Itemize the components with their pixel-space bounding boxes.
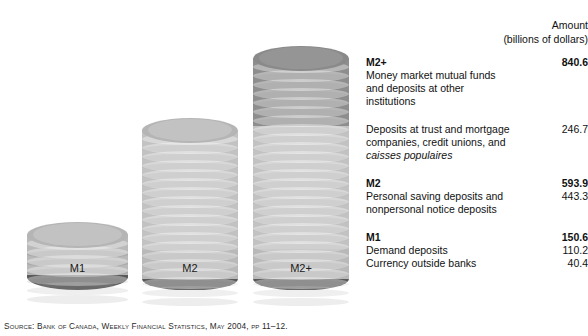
coin-shadow — [253, 298, 349, 306]
amount-column-header: Amount (billions of dollars) — [503, 18, 588, 46]
legend-line-text: Currency outside banks — [366, 257, 516, 270]
legend-heading-row: M2 593.9 — [366, 177, 588, 190]
axis-label-m2: M2 — [142, 262, 238, 274]
legend-heading-label: M2+ — [366, 56, 516, 69]
bar-top-cap-sheen — [259, 47, 343, 69]
legend-line: Personal saving deposits and 443.3 — [366, 190, 588, 203]
coin-seam — [142, 286, 238, 299]
bar-m2[interactable]: M2 — [142, 118, 238, 290]
amount-header-line2: (billions of dollars) — [503, 32, 588, 46]
legend-group-trust-mortgage: Deposits at trust and mortgage 246.7 com… — [366, 123, 588, 162]
axis-label-m1: M1 — [27, 262, 128, 274]
legend-heading-value: 593.9 — [532, 177, 588, 190]
legend-line: Demand deposits 110.2 — [366, 244, 588, 257]
amount-header-line1: Amount — [503, 18, 588, 32]
legend-line-text: Personal saving deposits and — [366, 190, 516, 203]
legend-line: institutions — [366, 95, 588, 108]
source-note: Source: Bank of Canada, Weekly Financial… — [4, 321, 288, 331]
legend-line-value: 110.2 — [532, 244, 588, 257]
bar-top-cap-sheen — [148, 119, 232, 141]
coin-seam — [27, 282, 128, 295]
legend-line-value: 246.7 — [532, 123, 588, 136]
legend-line-text: Money market mutual funds — [366, 69, 516, 82]
legend-line-text: caisses populaires — [366, 149, 516, 162]
coin-seam — [253, 286, 349, 299]
legend-line-text: companies, credit unions, and — [366, 136, 516, 149]
legend-line-text: Demand deposits — [366, 244, 516, 257]
legend-line-text: institutions — [366, 95, 516, 108]
bar-m1[interactable]: M1 — [27, 222, 128, 290]
chart-plot-area: M1 M2 M2+ — [0, 0, 360, 336]
legend-heading-value: 840.6 — [532, 56, 588, 69]
coin-shadow — [27, 295, 128, 304]
legend-line: companies, credit unions, and — [366, 136, 588, 149]
legend-heading-value: 150.6 — [532, 231, 588, 244]
bar-top-cap-sheen — [33, 223, 122, 246]
legend-line-value: 443.3 — [532, 190, 588, 203]
legend-line: caisses populaires — [366, 149, 588, 162]
legend-heading-row: M1 150.6 — [366, 231, 588, 244]
axis-label-m2plus: M2+ — [253, 262, 349, 274]
legend-group-m2plus: M2+ 840.6 Money market mutual funds and … — [366, 56, 588, 108]
legend-heading-row: M2+ 840.6 — [366, 56, 588, 69]
legend-line: Currency outside banks 40.4 — [366, 257, 588, 270]
legend-line: Deposits at trust and mortgage 246.7 — [366, 123, 588, 136]
legend-table: Amount (billions of dollars) M2+ 840.6 M… — [366, 0, 588, 320]
legend-line-text: nonpersonal notice deposits — [366, 203, 516, 216]
legend-line: nonpersonal notice deposits — [366, 203, 588, 216]
legend-group-m2: M2 593.9 Personal saving deposits and 44… — [366, 177, 588, 216]
bar-m2plus[interactable]: M2+ — [253, 46, 349, 290]
legend-group-m1: M1 150.6 Demand deposits 110.2 Currency … — [366, 231, 588, 270]
legend-heading-label: M1 — [366, 231, 516, 244]
legend-line-text: and deposits at other — [366, 82, 516, 95]
coin-shadow — [142, 298, 238, 306]
legend-heading-label: M2 — [366, 177, 516, 190]
legend-line: and deposits at other — [366, 82, 588, 95]
legend-line-value: 40.4 — [532, 257, 588, 270]
legend-line: Money market mutual funds — [366, 69, 588, 82]
figure-root: M1 M2 M2+ Amount (billions of dollars) M… — [0, 0, 588, 336]
legend-line-text: Deposits at trust and mortgage — [366, 123, 516, 136]
